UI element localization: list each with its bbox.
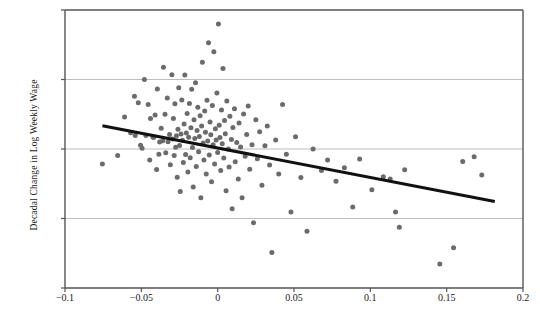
scatter-point	[262, 143, 267, 148]
scatter-point	[393, 209, 398, 214]
scatter-point	[189, 87, 194, 92]
scatter-point	[304, 229, 309, 234]
scatter-point	[179, 132, 184, 137]
scatter-point	[402, 167, 407, 172]
scatter-point	[193, 80, 198, 85]
scatter-point	[169, 72, 174, 77]
scatter-point	[204, 98, 209, 103]
scatter-point	[136, 100, 141, 105]
scatter-point	[229, 137, 234, 142]
scatter-point	[176, 85, 181, 90]
scatter-point	[325, 158, 330, 163]
scatter-point	[191, 184, 196, 189]
scatter-point	[218, 168, 223, 173]
scatter-point	[167, 132, 172, 137]
scatter-point	[165, 95, 170, 100]
scatter-point	[186, 135, 191, 140]
scatter-point	[201, 158, 206, 163]
scatter-point	[181, 160, 186, 165]
scatter-point	[163, 150, 168, 155]
scatter-point	[178, 189, 183, 194]
scatter-point	[206, 40, 211, 45]
scatter-point	[227, 165, 232, 170]
scatter-point	[187, 101, 192, 106]
scatter-point	[221, 66, 226, 71]
scatter-point	[298, 175, 303, 180]
scatter-point	[185, 169, 190, 174]
scatter-point	[192, 117, 197, 122]
scatter-point	[156, 152, 161, 157]
scatter-point	[217, 123, 222, 128]
scatter-point	[280, 102, 285, 107]
scatter-point	[100, 161, 105, 166]
scatter-point	[369, 187, 374, 192]
scatter-point	[251, 220, 256, 225]
scatter-point	[273, 137, 278, 142]
scatter-point	[342, 165, 347, 170]
scatter-point	[168, 162, 173, 167]
scatter-point	[195, 128, 200, 133]
scatter-point	[451, 245, 456, 250]
scatter-point	[115, 153, 120, 158]
scatter-point	[161, 65, 166, 70]
scatter-point	[472, 154, 477, 159]
scatter-point	[142, 77, 147, 82]
scatter-point	[140, 146, 145, 151]
scatter-point	[174, 133, 179, 138]
scatter-point	[182, 72, 187, 77]
scatter-point	[257, 129, 262, 134]
x-tick-label: 0.1	[364, 292, 377, 303]
scatter-point	[122, 115, 127, 120]
scatter-point	[171, 116, 176, 121]
scatter-point	[216, 21, 221, 26]
scatter-point	[185, 111, 190, 116]
scatter-point	[182, 121, 187, 126]
scatter-point	[234, 140, 239, 145]
scatter-point	[212, 161, 217, 166]
scatter-point	[207, 152, 212, 157]
x-tick-labels: −0.1−0.0500.050.10.150.2	[0, 292, 540, 312]
scatter-point	[196, 149, 201, 154]
scatter-point	[200, 60, 205, 65]
x-tick-label: −0.05	[130, 292, 153, 303]
scatter-point	[188, 125, 193, 130]
scatter-point	[265, 124, 270, 129]
scatter-point	[177, 143, 182, 148]
scatter-point	[276, 172, 281, 177]
scatter-point	[197, 134, 202, 139]
scatter-point	[460, 159, 465, 164]
scatter-point	[209, 179, 214, 184]
scatter-point	[208, 119, 213, 124]
scatter-point	[284, 152, 289, 157]
scatter-point	[163, 112, 168, 117]
scatter-point	[153, 112, 158, 117]
scatter-point	[238, 144, 243, 149]
scatter-plot-figure: Decadal Change in Log Weekly Wage 0.20.1…	[0, 0, 540, 320]
scatter-point	[155, 86, 160, 91]
scatter-point	[204, 172, 209, 177]
scatter-point	[241, 111, 246, 116]
scatter-point	[159, 126, 164, 131]
scatter-point	[479, 173, 484, 178]
scatter-point	[147, 158, 152, 163]
scatter-point	[146, 102, 151, 107]
x-tick-label: 0.2	[517, 292, 530, 303]
scatter-point	[437, 262, 442, 267]
y-tick-labels: 0.20.10−0.1−0.2	[0, 0, 60, 320]
scatter-point	[219, 108, 224, 113]
scatter-point	[202, 109, 207, 114]
scatter-point	[222, 118, 227, 123]
scatter-point	[311, 147, 316, 152]
scatter-point	[253, 117, 258, 122]
scatter-point	[213, 126, 218, 131]
scatter-point	[175, 175, 180, 180]
scatter-point	[224, 188, 229, 193]
x-tick-label: 0.05	[285, 292, 303, 303]
scatter-point	[233, 159, 238, 164]
scatter-point	[293, 134, 298, 139]
scatter-point	[205, 139, 210, 144]
scatter-point	[172, 101, 177, 106]
scatter-point	[259, 183, 264, 188]
scatter-point	[221, 156, 226, 161]
scatter-point	[247, 167, 252, 172]
